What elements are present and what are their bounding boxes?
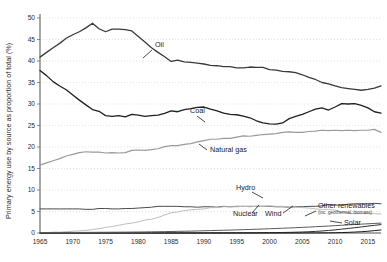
series-label-solar: Solar <box>344 218 361 227</box>
y-tick-label: 20 <box>28 143 36 150</box>
y-tick-label: 30 <box>28 100 36 107</box>
y-tick-label: 25 <box>28 122 36 129</box>
y-tick-label: 50 <box>28 14 36 21</box>
x-tick-label: 2015 <box>361 238 376 245</box>
x-tick-label: 1985 <box>164 238 179 245</box>
series-label-coal: Coal <box>190 106 205 115</box>
series-label-nuclear: Nuclear <box>233 209 258 218</box>
series-line-coal <box>40 70 381 124</box>
x-tick-label: 1975 <box>98 238 113 245</box>
series-line-oil <box>40 23 381 90</box>
x-tick-label: 2005 <box>295 238 310 245</box>
x-tick-label: 1965 <box>33 238 48 245</box>
series-sublabel-other-renewables: (inc. geothermal, biomass) <box>318 210 373 215</box>
y-tick-labels: 05101520253035404550 <box>28 14 40 236</box>
x-tick-labels: 1965197019751980198519901995200020052010… <box>33 238 376 245</box>
series-label-other-renewables: Other renewables <box>318 201 375 210</box>
series-label-oil: Oil <box>155 40 164 49</box>
series-label-wind: Wind <box>265 209 281 218</box>
x-tick-label: 2000 <box>262 238 277 245</box>
y-axis-title: Primary energy use by source as proporti… <box>4 43 13 219</box>
series-line-other-renewables <box>40 223 381 232</box>
series-label-natural-gas: Natural gas <box>210 145 247 154</box>
annotation-leader <box>143 50 152 58</box>
y-tick-label: 0 <box>31 229 35 236</box>
y-tick-label: 10 <box>28 186 36 193</box>
annotation-leader <box>197 116 205 122</box>
energy-mix-line-chart: 05101520253035404550 1965197019751980198… <box>0 0 387 262</box>
y-tick-label: 35 <box>28 79 36 86</box>
y-tick-label: 15 <box>28 165 36 172</box>
x-tick-label: 1970 <box>65 238 80 245</box>
y-tick-label: 5 <box>31 208 35 215</box>
x-tick-label: 2010 <box>328 238 343 245</box>
chart-canvas: 05101520253035404550 1965197019751980198… <box>0 0 387 262</box>
series-label-hydro: Hydro <box>236 183 255 192</box>
x-tick-label: 1990 <box>197 238 212 245</box>
y-tick-label: 40 <box>28 57 36 64</box>
annotation-leader <box>252 192 263 198</box>
x-tick-label: 1995 <box>229 238 244 245</box>
x-tick-label: 1980 <box>131 238 146 245</box>
y-tick-label: 45 <box>28 36 36 43</box>
annotation-leader <box>330 221 342 223</box>
